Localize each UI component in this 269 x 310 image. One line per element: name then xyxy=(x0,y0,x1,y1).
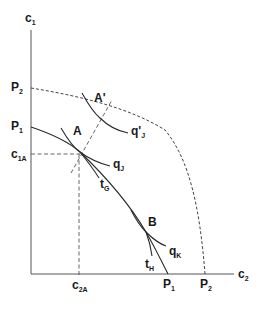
c1A-label: c1A xyxy=(11,147,27,162)
tG-curve xyxy=(80,152,99,178)
tG-label: tG xyxy=(100,177,110,192)
x-axis-label: c2 xyxy=(238,267,249,282)
point-B-label: B xyxy=(148,215,157,229)
ppf-p2-curve xyxy=(31,88,205,274)
qJ-prime-label: q'J xyxy=(131,124,145,139)
y-axis-label: c1 xyxy=(25,11,36,26)
y-intercept-p2-label: P2 xyxy=(11,80,23,95)
point-A-label: A xyxy=(73,124,82,138)
x-intercept-p1-label: P1 xyxy=(163,277,175,292)
ppf-diagram: c1 c2 P2 P1 c1A c2A P1 P2 A A' B qJ q'J … xyxy=(0,0,269,310)
x-intercept-p2-label: P2 xyxy=(200,277,212,292)
qK-label: qK xyxy=(169,244,181,259)
qJ-label: qJ xyxy=(113,157,124,172)
point-A-prime-label: A' xyxy=(94,91,106,105)
y-intercept-p1-label: P1 xyxy=(11,119,23,134)
ppf-p1-curve xyxy=(31,127,168,274)
tH-label: tH xyxy=(145,257,154,272)
axes xyxy=(31,30,234,274)
c2A-label: c2A xyxy=(72,278,88,293)
